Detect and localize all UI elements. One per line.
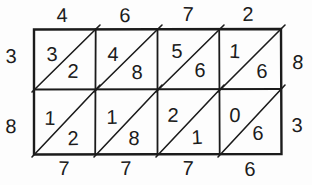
row1-diagonals	[32, 25, 285, 92]
bottom-digit-3: 7	[182, 158, 194, 178]
cell-r2c3-tens-digit: 2	[167, 105, 179, 125]
lattice-multiplication-diagram: 4 6 7 2 3 8 8 3 7 7 7 6 3 2 4 8 5 6 1 6 …	[0, 0, 312, 185]
cell-r2c3-units-digit: 1	[191, 127, 203, 148]
cell-r1c4-units-digit: 6	[256, 61, 267, 81]
cell-r2c2-tens-digit: 1	[106, 107, 117, 127]
cell-r2c4-units-digit: 6	[252, 123, 263, 143]
cell-r1c1-units-digit: 2	[67, 61, 79, 81]
left-digit-row1: 3	[5, 46, 17, 66]
bottom-digit-4: 6	[244, 159, 255, 179]
bottom-digit-1: 7	[58, 158, 69, 178]
cell-r1c2-units-digit: 8	[131, 62, 143, 82]
bottom-digit-2: 7	[120, 158, 132, 178]
cell-r2c2-units-digit: 8	[128, 128, 140, 148]
cell-r1c4-tens-digit: 1	[229, 41, 241, 62]
cell-r1c2-tens-digit: 4	[107, 44, 119, 64]
cell-r1c3-units-digit: 6	[194, 60, 206, 80]
top-digit-4: 2	[242, 4, 253, 24]
cell-r1c3-tens-digit: 5	[171, 41, 182, 61]
cell-r2c1-tens-digit: 1	[44, 108, 56, 128]
top-digit-2: 6	[119, 5, 130, 25]
cell-r1c1-tens-digit: 3	[46, 44, 58, 65]
right-digit-row2: 3	[291, 115, 303, 135]
top-digit-3: 7	[182, 4, 194, 24]
lattice-grid	[0, 0, 312, 185]
left-digit-row2: 8	[5, 116, 16, 136]
top-digit-1: 4	[56, 5, 68, 25]
cell-r2c1-units-digit: 2	[67, 128, 79, 148]
right-digit-row1: 8	[292, 52, 304, 73]
cell-r2c4-tens-digit: 0	[229, 105, 241, 126]
